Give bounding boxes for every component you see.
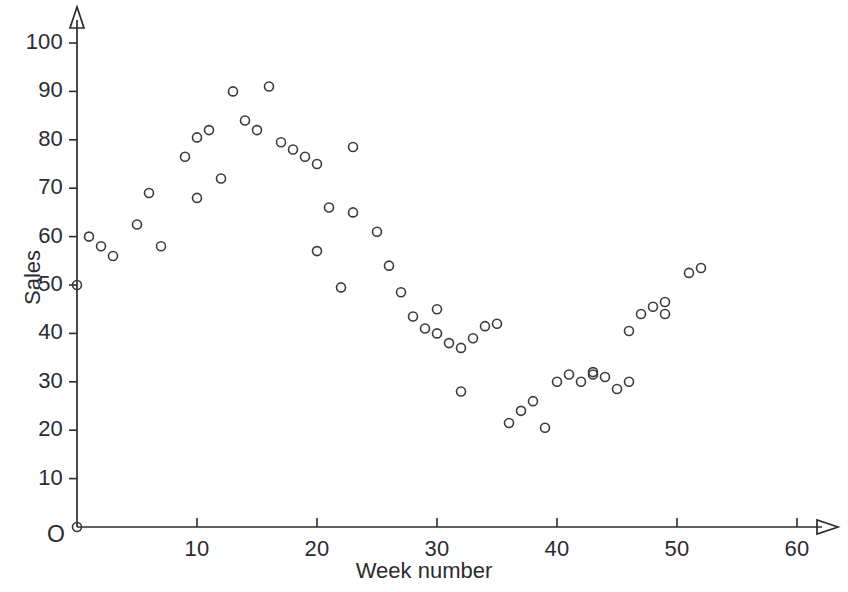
x-axis-ticks	[197, 518, 797, 527]
y-axis-title: Sales	[20, 250, 46, 305]
data-point	[517, 406, 526, 415]
data-point	[193, 193, 202, 202]
data-point	[97, 242, 106, 251]
y-axis-tick-label: 90	[0, 77, 63, 103]
data-point	[625, 377, 634, 386]
data-point	[349, 143, 358, 152]
y-axis-tick-label: 80	[0, 126, 63, 152]
data-point	[289, 145, 298, 154]
data-point	[433, 305, 442, 314]
origin-label: O	[47, 521, 65, 548]
data-point	[397, 288, 406, 297]
y-axis-tick-label: 60	[0, 223, 63, 249]
data-point	[325, 203, 334, 212]
data-point	[85, 232, 94, 241]
data-point	[529, 397, 538, 406]
data-point	[229, 87, 238, 96]
y-axis-tick-label: 70	[0, 174, 63, 200]
data-point	[565, 370, 574, 379]
data-point	[697, 264, 706, 273]
data-point	[265, 82, 274, 91]
data-point	[637, 310, 646, 319]
data-point	[157, 242, 166, 251]
data-point	[661, 297, 670, 306]
data-points	[73, 82, 706, 531]
data-point	[181, 152, 190, 161]
y-axis-tick-label: 20	[0, 416, 63, 442]
data-point	[625, 326, 634, 335]
data-point	[133, 220, 142, 229]
data-point	[685, 268, 694, 277]
data-point	[301, 152, 310, 161]
data-point	[445, 339, 454, 348]
data-point	[457, 387, 466, 396]
y-axis-tick-label: 40	[0, 319, 63, 345]
data-point	[421, 324, 430, 333]
data-point	[457, 343, 466, 352]
y-axis-tick-label: 100	[0, 29, 63, 55]
data-point	[505, 418, 514, 427]
plot-area	[0, 0, 848, 592]
y-axis-tick-label: 10	[0, 465, 63, 491]
scatter-chart: 102030405060708090100 102030405060 O Sal…	[0, 0, 848, 592]
data-point	[373, 227, 382, 236]
data-point	[433, 329, 442, 338]
data-point	[577, 377, 586, 386]
data-point	[217, 174, 226, 183]
y-axis-tick-label: 30	[0, 368, 63, 394]
data-point	[313, 247, 322, 256]
data-point	[145, 189, 154, 198]
data-point	[469, 334, 478, 343]
data-point	[241, 116, 250, 125]
data-point	[613, 385, 622, 394]
data-point	[409, 312, 418, 321]
x-axis-title: Week number	[0, 558, 848, 584]
data-point	[313, 160, 322, 169]
data-point	[337, 283, 346, 292]
data-point	[493, 319, 502, 328]
y-axis-ticks	[69, 43, 77, 479]
data-point	[349, 208, 358, 217]
data-point	[385, 261, 394, 270]
data-point	[205, 126, 214, 135]
data-point	[601, 372, 610, 381]
data-point	[193, 133, 202, 142]
data-point	[553, 377, 562, 386]
data-point	[277, 138, 286, 147]
data-point	[541, 423, 550, 432]
data-point	[253, 126, 262, 135]
data-point	[661, 310, 670, 319]
data-point	[481, 322, 490, 331]
axes	[70, 7, 838, 534]
data-point	[649, 302, 658, 311]
data-point	[109, 251, 118, 260]
